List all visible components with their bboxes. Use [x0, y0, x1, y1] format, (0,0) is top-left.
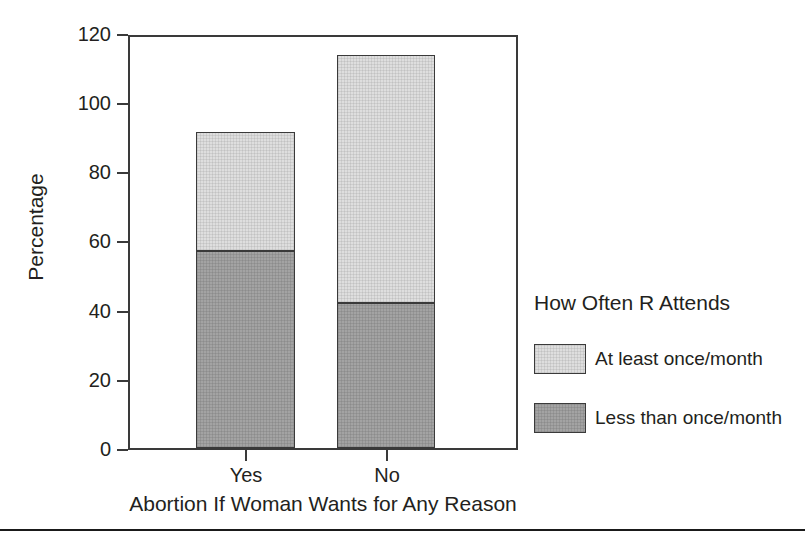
y-tick-mark: [117, 241, 128, 243]
bar-segment-less-than-once-month[interactable]: [196, 251, 295, 448]
x-tick-mark-yes: [245, 450, 247, 461]
y-axis-tick-120: 120: [100, 35, 128, 36]
legend-title: How Often R Attends: [534, 290, 799, 316]
y-axis-tick-0: 0: [100, 450, 128, 451]
y-tick-label: 120: [41, 22, 111, 46]
y-axis-tick-80: 80: [100, 173, 128, 174]
y-axis-title: Percentage: [24, 147, 48, 307]
y-tick-mark: [117, 449, 128, 451]
y-axis-tick-40: 40: [100, 312, 128, 313]
y-tick-mark: [117, 172, 128, 174]
y-tick-label: 40: [41, 299, 111, 323]
bar-segment-at-least-once-month[interactable]: [196, 132, 295, 251]
y-tick-label: 80: [41, 160, 111, 184]
bar-segment-at-least-once-month[interactable]: [337, 55, 435, 303]
x-axis-label-no: No: [307, 463, 467, 487]
y-axis-tick-100: 100: [100, 104, 128, 105]
x-tick-mark-no: [386, 450, 388, 461]
legend: How Often R Attends At least once/month …: [534, 290, 799, 462]
legend-swatch-dark-icon: [534, 403, 586, 433]
stacked-bar-chart-figure: 120 100 80 60 40 20 0 Percentage: [0, 0, 805, 545]
bar-no[interactable]: [337, 55, 435, 448]
y-tick-label: 20: [41, 368, 111, 392]
y-tick-mark: [117, 311, 128, 313]
y-tick-mark: [117, 103, 128, 105]
y-axis-tick-20: 20: [100, 381, 128, 382]
x-axis-title: Abortion If Woman Wants for Any Reason: [0, 491, 646, 517]
y-axis-tick-60: 60: [100, 242, 128, 243]
legend-entry-at-least-once-month[interactable]: At least once/month: [534, 344, 799, 374]
x-axis-label-yes: Yes: [166, 463, 326, 487]
bar-yes[interactable]: [196, 132, 295, 448]
y-tick-mark: [117, 34, 128, 36]
footer-divider: [0, 529, 805, 531]
legend-entry-less-than-once-month[interactable]: Less than once/month: [534, 403, 799, 433]
y-tick-label: 100: [41, 91, 111, 115]
legend-entry-label: Less than once/month: [595, 406, 782, 430]
y-tick-mark: [117, 380, 128, 382]
y-tick-label: 60: [41, 229, 111, 253]
plot-area: [128, 35, 518, 450]
y-tick-label: 0: [41, 437, 111, 461]
legend-entry-label: At least once/month: [595, 347, 763, 371]
bar-segment-less-than-once-month[interactable]: [337, 303, 435, 448]
legend-swatch-light-icon: [534, 344, 586, 374]
